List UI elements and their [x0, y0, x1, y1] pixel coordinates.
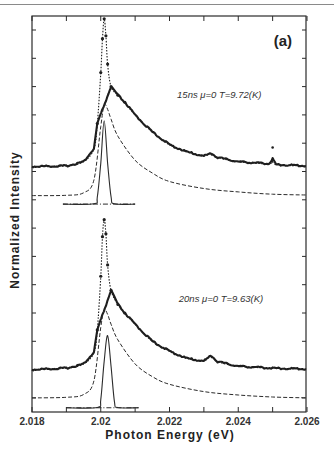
- measured-spectrum-trace: [32, 291, 306, 371]
- data-point-marker: [123, 101, 126, 104]
- data-point-marker: [106, 62, 109, 65]
- data-point-marker: [103, 218, 106, 221]
- x-tick-label: 2.026: [294, 416, 319, 427]
- data-point-marker: [123, 311, 126, 314]
- data-point-marker: [116, 94, 119, 97]
- data-point-marker: [101, 37, 104, 40]
- data-point-marker: [104, 34, 107, 37]
- x-tick-label: 2.024: [226, 416, 251, 427]
- x-axis-title: Photon Energy (eV): [105, 428, 234, 442]
- data-point-marker: [103, 17, 106, 20]
- annotation-20ns: 20ns μ=0 T=9.63(K): [178, 293, 263, 304]
- data-point-marker: [99, 71, 102, 74]
- data-point-marker: [116, 303, 119, 306]
- x-tick-label: 2.018: [19, 416, 44, 427]
- x-tick-label: 2.02: [91, 416, 111, 427]
- data-point-marker: [101, 235, 104, 238]
- data-point-marker: [109, 85, 112, 88]
- fit-curve-dashed: [32, 310, 307, 398]
- data-point-marker: [96, 122, 99, 125]
- instrument-response-curve: [63, 121, 135, 205]
- data-point-marker: [109, 289, 112, 292]
- instrument-response-curve: [66, 336, 138, 409]
- stray-data-point: [271, 146, 274, 149]
- panel-label: (a): [274, 32, 292, 49]
- plot-frame: [32, 16, 306, 412]
- data-point-marker: [96, 328, 99, 331]
- data-point-marker: [99, 275, 102, 278]
- measured-spectrum-trace: [32, 87, 306, 167]
- y-axis-title: Normalized Intensity: [8, 151, 22, 288]
- x-tick-label: 2.022: [157, 416, 182, 427]
- annotation-15ns: 15ns μ=0 T=9.72(K): [177, 89, 261, 100]
- axis-ticks: [32, 16, 307, 412]
- data-point-marker: [106, 263, 109, 266]
- measured-spectrum-line: [32, 220, 307, 370]
- x-tick-labels: 2.0182.022.0222.0242.026: [19, 416, 319, 427]
- data-point-marker: [104, 232, 107, 235]
- plot-series: [32, 17, 307, 408]
- fit-curve-dashed: [32, 104, 307, 195]
- spectrum-chart: 2.0182.022.0222.0242.026 (a) 15ns μ=0 T=…: [0, 0, 334, 450]
